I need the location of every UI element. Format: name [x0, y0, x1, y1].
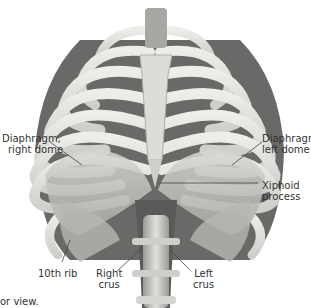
label-line: Right — [96, 268, 122, 279]
label-line: right dome — [2, 144, 63, 155]
label-line: Diaphragm, — [2, 133, 63, 144]
label-line: Diaphragm, — [262, 133, 311, 144]
label-10th-rib: 10th rib — [38, 268, 77, 279]
label-right-crus: Right crus — [96, 268, 122, 290]
label-line: Left — [193, 268, 214, 279]
label-line: crus — [96, 279, 122, 290]
label-left-crus: Left crus — [193, 268, 214, 290]
label-line: 10th rib — [38, 268, 77, 279]
label-diaphragm-left-dome: Diaphragm, left dome — [262, 133, 311, 155]
label-line: process — [262, 191, 300, 202]
label-diaphragm-right-dome: Diaphragm, right dome — [2, 133, 63, 155]
anatomy-figure: Diaphragm, right dome Diaphragm, left do… — [0, 0, 311, 308]
label-xiphoid-process: Xiphoid process — [262, 180, 300, 202]
label-line: left dome — [262, 144, 311, 155]
label-line: crus — [193, 279, 214, 290]
label-line: Xiphoid — [262, 180, 300, 191]
figure-caption-fragment: or view. — [0, 296, 39, 307]
